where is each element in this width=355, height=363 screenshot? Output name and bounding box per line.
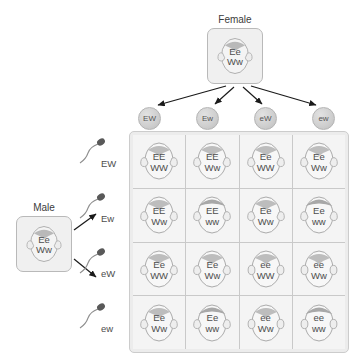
punnett-cell: EEWw <box>186 135 238 188</box>
female-parent-label: Female <box>197 14 273 25</box>
sperm-gamete-label-4: ew <box>101 323 113 334</box>
punnett-cell: Eeww <box>186 296 238 349</box>
offspring-face-icon <box>133 243 185 296</box>
egg-gamete-4: ew <box>312 107 335 130</box>
offspring-face-icon <box>186 243 238 296</box>
punnett-cell: EEWw <box>133 189 185 242</box>
punnett-cell: EeWw <box>240 189 292 242</box>
punnett-cell: Eeww <box>293 189 345 242</box>
punnett-cell: EeWw <box>133 296 185 349</box>
offspring-face-icon <box>240 243 292 296</box>
punnett-cell: EEww <box>186 189 238 242</box>
female-parent-box: Ee Ww <box>207 28 263 84</box>
egg-gamete-2: Ew <box>196 107 219 130</box>
punnett-square-diagram: Female Ee Ww Male Ee Ww EW Ew eW e <box>0 0 355 363</box>
male-parent-label: Male <box>6 202 82 213</box>
offspring-face-icon <box>186 296 238 349</box>
arrow-female-to-egg-3 <box>243 87 262 104</box>
offspring-face-icon <box>186 189 238 242</box>
punnett-cell: eeWw <box>293 243 345 296</box>
female-face-icon <box>208 29 262 83</box>
offspring-face-icon <box>186 135 238 188</box>
punnett-cell: eeWw <box>240 296 292 349</box>
punnett-cell: eeWW <box>240 243 292 296</box>
punnett-cell: EEWW <box>133 135 185 188</box>
offspring-face-icon <box>293 135 345 188</box>
sperm-gamete-label-2: Ew <box>101 213 114 224</box>
arrow-female-to-egg-4 <box>251 86 316 105</box>
offspring-face-icon <box>240 189 292 242</box>
offspring-face-icon <box>293 243 345 296</box>
sperm-gamete-label-1: EW <box>101 158 116 169</box>
punnett-cell: eeww <box>293 296 345 349</box>
arrow-female-to-egg-1 <box>158 86 226 105</box>
punnett-cell: EeWw <box>186 243 238 296</box>
male-parent-box: Ee Ww <box>16 216 72 272</box>
punnett-cell: EeWw <box>293 135 345 188</box>
egg-gamete-3: eW <box>254 107 277 130</box>
offspring-face-icon <box>133 296 185 349</box>
punnett-grid: EEWWEEWwEeWWEeWwEEWwEEwwEeWwEewwEeWWEeWw… <box>129 131 349 353</box>
sperm-gamete-label-3: eW <box>101 268 115 279</box>
punnett-cell: EeWW <box>240 135 292 188</box>
offspring-face-icon <box>240 296 292 349</box>
offspring-face-icon <box>133 189 185 242</box>
offspring-face-icon <box>293 189 345 242</box>
offspring-face-icon <box>133 135 185 188</box>
arrow-female-to-egg-2 <box>215 87 234 104</box>
offspring-face-icon <box>293 296 345 349</box>
male-face-icon <box>17 217 71 271</box>
offspring-face-icon <box>240 135 292 188</box>
punnett-grid-cells: EEWWEEWwEeWWEeWwEEWwEEwwEeWwEewwEeWWEeWw… <box>133 135 345 349</box>
punnett-cell: EeWW <box>133 243 185 296</box>
egg-gamete-1: EW <box>138 107 161 130</box>
